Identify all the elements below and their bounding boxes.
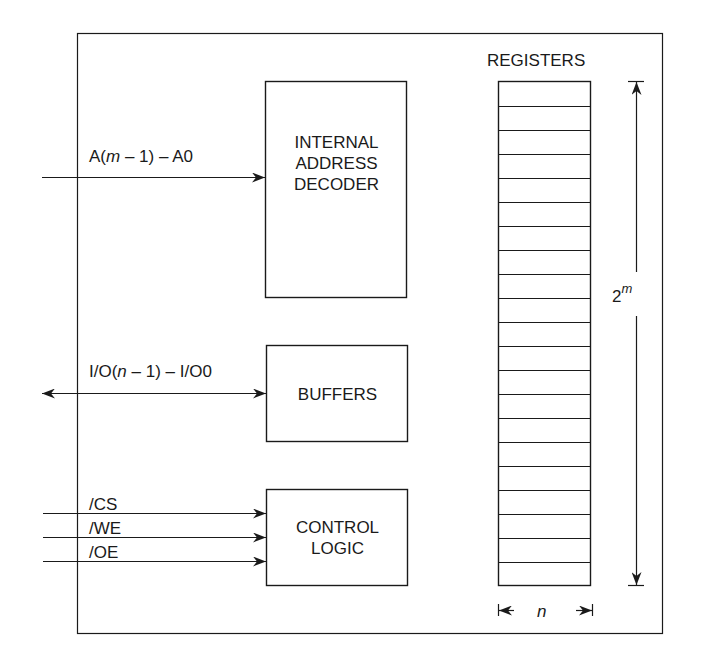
address-bus-label: A(m – 1) – A0: [89, 148, 193, 165]
width-dimension-label: n: [537, 603, 546, 620]
address-label-var: m: [106, 147, 120, 166]
buffers-text: BUFFERS: [267, 346, 408, 442]
data-bus-label: I/O(n – 1) – I/O0: [89, 363, 212, 380]
width-label-var: n: [537, 602, 546, 621]
control-line-2: LOGIC: [311, 538, 364, 559]
data-label-prefix: I/O(: [89, 362, 117, 381]
buffers-line-1: BUFFERS: [298, 384, 377, 405]
control-logic-text: CONTROL LOGIC: [267, 490, 408, 586]
data-label-suffix: – 1) – I/O0: [127, 362, 212, 381]
control-line-1: CONTROL: [296, 517, 379, 538]
height-dimension-label: 2m: [612, 288, 632, 305]
address-decoder-text: INTERNAL ADDRESS DECODER: [266, 128, 407, 198]
register-array: [499, 82, 591, 586]
decoder-line-3: DECODER: [294, 174, 379, 195]
address-label-prefix: A(: [89, 147, 106, 166]
oe-signal-label: /OE: [89, 544, 118, 561]
data-label-var: n: [117, 362, 126, 381]
decoder-line-2: ADDRESS: [295, 153, 377, 174]
height-dimension-arrow: [628, 82, 644, 586]
registers-title: REGISTERS: [487, 52, 585, 69]
address-label-suffix: – 1) – A0: [120, 147, 193, 166]
decoder-line-1: INTERNAL: [294, 132, 378, 153]
cs-signal-label: /CS: [89, 496, 117, 513]
height-label-exponent: m: [621, 281, 632, 296]
we-signal-label: /WE: [89, 520, 121, 537]
